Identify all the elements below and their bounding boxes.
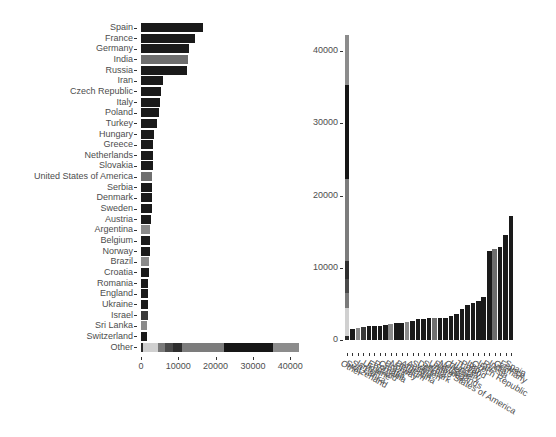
y-tick xyxy=(134,315,137,316)
other-stack-segment xyxy=(173,343,182,352)
y-axis-label: Greece xyxy=(103,139,133,150)
bar-norway xyxy=(141,247,150,256)
x-tick-label: 10000 xyxy=(166,361,191,371)
bar-england xyxy=(372,326,377,340)
other-stack-segment xyxy=(345,35,350,86)
x-tick xyxy=(374,353,375,356)
other-stack-segment xyxy=(345,293,350,307)
y-tick xyxy=(134,59,137,60)
y-axis-label: Serbia xyxy=(107,182,133,193)
bar-romania xyxy=(141,279,148,288)
y-axis-label: Belgium xyxy=(100,235,133,246)
bar-england xyxy=(141,289,148,298)
bar-poland xyxy=(465,305,470,340)
bar-greece xyxy=(141,140,153,149)
bar-switzerland xyxy=(350,329,355,340)
other-stack-segment xyxy=(182,343,224,352)
x-tick xyxy=(369,353,370,356)
x-tick xyxy=(290,357,291,360)
other-stack-segment xyxy=(345,85,350,179)
y-axis-label: United States of America xyxy=(34,171,133,182)
y-tick-label: 40000 xyxy=(298,45,338,55)
bar-israel xyxy=(141,311,148,320)
other-stack-segment xyxy=(345,336,350,340)
other-stack-segment xyxy=(165,343,172,352)
y-axis-label: Sri Lanka xyxy=(95,320,133,331)
right-vertical-bar-chart: 010000200003000040000 OtherSwitzerlandSr… xyxy=(300,0,556,437)
x-tick-label: 20000 xyxy=(203,361,228,371)
y-axis-label: Austria xyxy=(105,214,133,225)
bar-brazil xyxy=(388,324,393,340)
y-tick xyxy=(134,326,137,327)
y-tick xyxy=(134,91,137,92)
y-tick xyxy=(134,81,137,82)
y-axis-label: Croatia xyxy=(104,267,133,278)
x-tick xyxy=(511,353,512,356)
bar-netherlands xyxy=(141,151,153,160)
y-tick xyxy=(340,123,343,124)
other-stack-segment xyxy=(345,261,350,279)
x-tick xyxy=(445,353,446,356)
x-tick xyxy=(178,357,179,360)
bar-switzerland xyxy=(141,332,147,341)
x-tick xyxy=(484,353,485,356)
bar-turkey xyxy=(141,119,157,128)
y-axis-label: Hungary xyxy=(99,129,133,140)
y-tick xyxy=(134,70,137,71)
bar-italy xyxy=(471,303,476,340)
y-tick xyxy=(134,177,137,178)
bar-italy xyxy=(141,98,160,107)
y-axis-label: Russia xyxy=(105,65,133,76)
other-stack-segment xyxy=(345,279,350,293)
y-tick xyxy=(134,230,137,231)
bar-iran xyxy=(141,76,163,85)
y-tick xyxy=(134,251,137,252)
bar-belgium xyxy=(399,323,404,340)
bar-norway xyxy=(394,323,399,340)
bar-austria xyxy=(141,215,151,224)
bar-brazil xyxy=(141,257,149,266)
x-tick xyxy=(396,353,397,356)
y-tick-label: 10000 xyxy=(298,262,338,272)
bar-denmark xyxy=(421,319,426,340)
x-tick xyxy=(216,357,217,360)
y-tick xyxy=(134,102,137,103)
y-tick xyxy=(134,304,137,305)
bar-sri-lanka xyxy=(141,321,147,330)
y-axis-label: Switzerland xyxy=(86,331,133,342)
y-axis-label: Czech Republic xyxy=(70,86,133,97)
y-tick xyxy=(134,262,137,263)
bar-germany xyxy=(498,247,503,340)
bar-iran xyxy=(481,297,486,340)
x-tick xyxy=(440,353,441,356)
bar-ukraine xyxy=(141,300,148,309)
bar-belgium xyxy=(141,236,150,245)
y-axis-label: England xyxy=(100,288,133,299)
bar-israel xyxy=(361,327,366,340)
x-tick xyxy=(141,357,142,360)
y-axis-label: Brazil xyxy=(110,256,133,267)
y-tick xyxy=(134,241,137,242)
x-tick xyxy=(462,353,463,356)
y-tick xyxy=(134,134,137,135)
bar-france xyxy=(503,235,508,340)
bar-united-states-of-america xyxy=(432,318,437,340)
x-tick xyxy=(467,353,468,356)
bar-croatia xyxy=(383,325,388,340)
y-tick xyxy=(134,283,137,284)
bar-spain xyxy=(509,216,514,340)
y-tick xyxy=(134,272,137,273)
y-tick xyxy=(134,38,137,39)
y-axis-label: India xyxy=(113,54,133,65)
bar-romania xyxy=(378,326,383,340)
bar-greece xyxy=(449,316,454,340)
bar-sweden xyxy=(416,319,421,340)
x-tick xyxy=(424,353,425,356)
bar-turkey xyxy=(460,309,465,340)
y-tick-label: 30000 xyxy=(298,117,338,127)
y-axis-label: Poland xyxy=(105,107,133,118)
x-tick xyxy=(407,353,408,356)
x-tick xyxy=(429,353,430,356)
y-tick xyxy=(134,336,137,337)
x-tick xyxy=(363,353,364,356)
